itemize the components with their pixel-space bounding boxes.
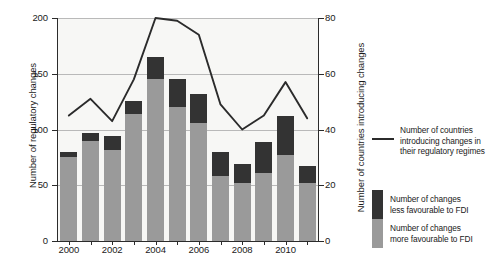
legend-line-label-3: their regulatory regimes: [400, 146, 485, 157]
x-tick-label-2008: 2008: [222, 244, 262, 255]
y-tick-right: [319, 241, 324, 242]
legend-item-bars: Number of changes less favourable to FDI…: [372, 190, 473, 248]
y-tick-label-right: 0: [325, 235, 365, 246]
x-tick-label-2004: 2004: [136, 244, 176, 255]
y-axis-right-title: Number of countries introducing changes: [355, 33, 366, 223]
y-tick-right: [319, 130, 324, 131]
y-tick-label-left: 200: [8, 12, 48, 23]
y-tick-left: [52, 185, 57, 186]
y-tick-right: [319, 18, 324, 19]
legend-line-label-2: introducing changes in: [400, 136, 485, 147]
x-tick-label-2002: 2002: [92, 244, 132, 255]
bar-swatch-dark-icon: [372, 190, 383, 219]
x-tick-label-2000: 2000: [49, 244, 89, 255]
y-tick-left: [52, 130, 57, 131]
y-tick-right: [319, 185, 324, 186]
line-swatch-icon: [372, 138, 394, 140]
line-series: [58, 18, 318, 241]
bar-swatch-icon: [372, 190, 383, 248]
y-axis-left-title: Number of regulatory changes: [27, 46, 38, 206]
y-tick-label-right: 80: [325, 12, 365, 23]
legend-bar-labels: Number of changes less favourable to FDI…: [390, 190, 473, 248]
chart-legend: Number of countries introducing changes …: [372, 0, 503, 268]
x-tick-label-2010: 2010: [266, 244, 306, 255]
legend-dark-label-2: less favourable to FDI: [390, 205, 473, 216]
y-tick-left: [52, 241, 57, 242]
legend-item-dark-label: Number of changes less favourable to FDI: [390, 190, 473, 219]
y-tick-right: [319, 74, 324, 75]
legend-item-line: Number of countries introducing changes …: [372, 125, 485, 157]
x-tick: [307, 241, 308, 245]
y-tick-left: [52, 74, 57, 75]
legend-item-line-label: Number of countries introducing changes …: [400, 125, 485, 157]
bar-swatch-gray-icon: [372, 219, 383, 248]
legend-gray-label-1: Number of changes: [390, 223, 473, 234]
x-tick-label-2006: 2006: [179, 244, 219, 255]
y-tick-label-left: 0: [8, 235, 48, 246]
legend-dark-label-1: Number of changes: [390, 194, 473, 205]
legend-item-gray-label: Number of changes more favourable to FDI: [390, 219, 473, 248]
chart-figure: 050100150200 020406080 20002002200420062…: [0, 0, 503, 268]
legend-line-label-1: Number of countries: [400, 125, 485, 136]
y-tick-left: [52, 18, 57, 19]
legend-gray-label-2: more favourable to FDI: [390, 234, 473, 245]
x-axis: [57, 241, 319, 242]
